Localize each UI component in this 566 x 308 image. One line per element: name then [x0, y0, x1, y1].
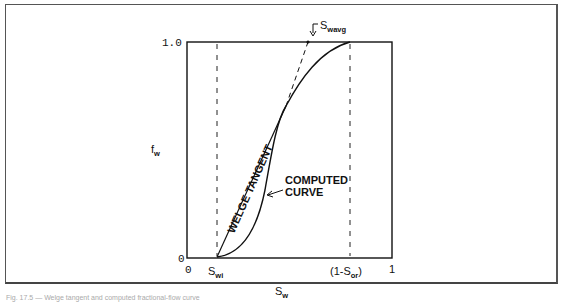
- y-axis-label: fw: [151, 143, 160, 158]
- welge-tangent-label: WELGE TANGENT: [225, 142, 275, 235]
- y-tick-1: 1.0: [162, 37, 182, 49]
- tangent-extension-dashed: [286, 42, 308, 106]
- x-tick-1: 1: [389, 263, 395, 275]
- y-tick-0: 0: [178, 253, 185, 265]
- computed-label-line2: CURVE: [285, 186, 323, 198]
- x-axis-label: Sw: [275, 285, 288, 300]
- figure-caption: Fig. 17.5 — Welge tangent and computed f…: [6, 294, 200, 301]
- swavg-point: [306, 40, 309, 43]
- computed-label-line1: COMPUTED: [285, 174, 348, 186]
- fractional-flow-diagram: Swavg 1.0 0 fw 0 Swi (1-Sor) 1 Sw WELGE …: [0, 0, 566, 308]
- plot-box: [187, 42, 392, 258]
- x-tick-sor: (1-Sor): [330, 265, 362, 280]
- x-tick-0: 0: [185, 264, 192, 276]
- swavg-label: Swavg: [320, 19, 347, 34]
- x-tick-swi: Swi: [208, 265, 223, 280]
